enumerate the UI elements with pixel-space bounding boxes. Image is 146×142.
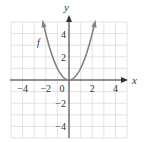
parabola-graph: −4−2024−4−224 x y f <box>0 0 146 142</box>
x-tick-label: 2 <box>90 83 95 94</box>
y-axis-label: y <box>63 1 69 13</box>
y-tick-label: −2 <box>55 98 66 109</box>
x-tick-label: 4 <box>113 83 118 94</box>
x-tick-label: −2 <box>40 83 51 94</box>
y-axis-arrow-icon <box>66 15 72 22</box>
y-tick-label: 4 <box>61 29 66 40</box>
x-tick-label: 0 <box>60 83 65 94</box>
x-axis-label: x <box>131 74 137 86</box>
x-tick-label: −4 <box>17 83 28 94</box>
y-tick-label: 2 <box>61 52 66 63</box>
y-tick-label: −4 <box>55 121 66 132</box>
function-label: f <box>37 37 41 48</box>
